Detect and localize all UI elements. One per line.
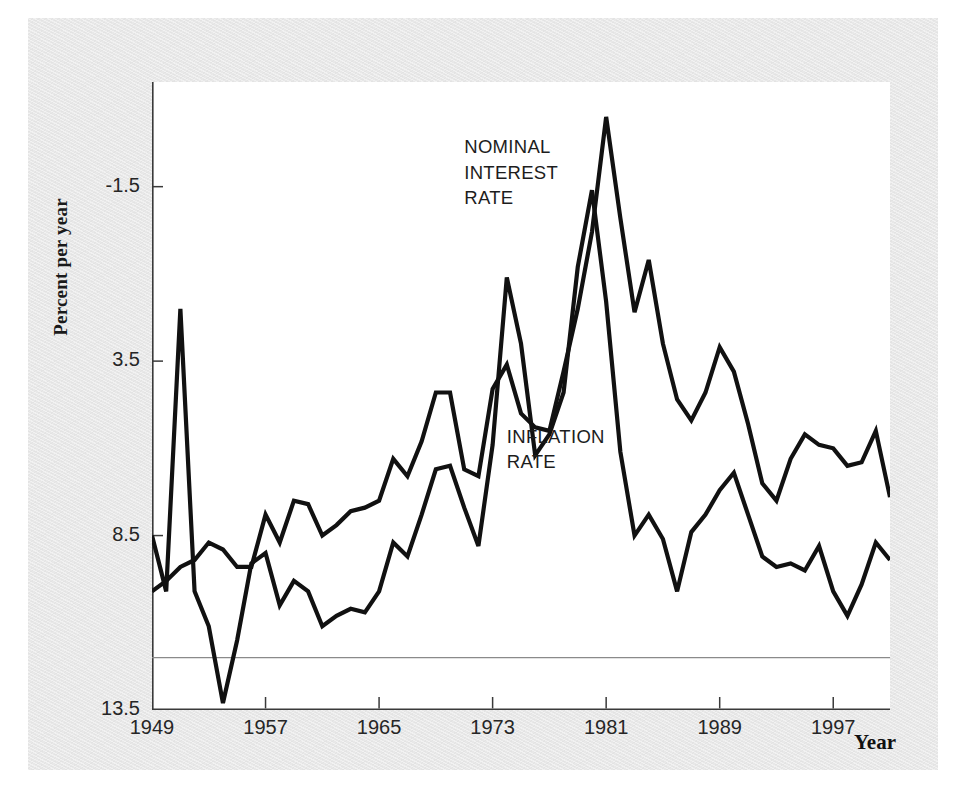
x-tick-label: 1989 — [697, 716, 742, 739]
annotation-inflation-rate: INFLATION RATE — [507, 424, 605, 475]
annotation-nominal-interest-rate: NOMINAL INTEREST RATE — [464, 134, 558, 211]
y-tick-label: -1.5 — [106, 174, 140, 197]
x-tick-label: 1997 — [811, 716, 856, 739]
x-tick-label: 1973 — [470, 716, 515, 739]
figure-panel: Percent per year 13.58.53.5-1.5 19491957… — [28, 18, 938, 770]
x-tick-label: 1949 — [130, 716, 175, 739]
x-axis-label: Year — [854, 730, 896, 755]
x-tick-label: 1957 — [243, 716, 288, 739]
y-tick-label: 3.5 — [112, 348, 140, 371]
y-tick-label: 8.5 — [112, 523, 140, 546]
y-axis-label: Percent per year — [50, 182, 72, 352]
x-tick-label: 1965 — [357, 716, 402, 739]
x-tick-label: 1981 — [584, 716, 629, 739]
